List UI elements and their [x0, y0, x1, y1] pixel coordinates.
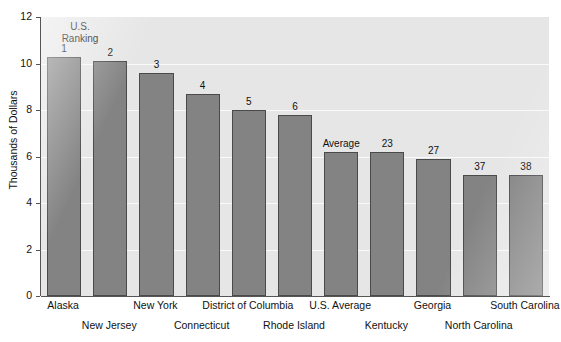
bar: [232, 110, 266, 296]
y-tick-label: 8: [6, 103, 32, 115]
us-ranking-annotation: U.S. Ranking: [49, 21, 111, 45]
annotation-line-2: Ranking: [49, 33, 111, 45]
y-tick-mark: [36, 296, 40, 297]
bar: [93, 61, 127, 296]
bar-data-label: 2: [70, 47, 150, 58]
y-tick-label: 4: [6, 196, 32, 208]
y-tick-label: 6: [6, 150, 32, 162]
x-axis-baseline: [41, 296, 550, 297]
bar: [139, 73, 173, 296]
bar-data-label: 3: [116, 59, 196, 70]
y-axis-title: Thousands of Dollars: [7, 5, 19, 275]
x-axis-label: North Carolina: [419, 319, 539, 331]
y-tick-label: 10: [6, 57, 32, 69]
annotation-line-1: U.S.: [49, 21, 111, 33]
bar: [186, 94, 220, 296]
bar: [324, 152, 358, 296]
bar-chart: Thousands of Dollars 024681012 123456Ave…: [0, 0, 561, 342]
chart-title-cropped: [0, 0, 561, 9]
x-axis-label: South Carolina: [465, 299, 561, 311]
bar-data-label: 6: [255, 101, 335, 112]
y-tick-label: 2: [6, 243, 32, 255]
bar-data-label: 27: [394, 145, 474, 156]
bar: [463, 175, 497, 296]
bar-data-label: 38: [486, 161, 561, 172]
bar: [47, 57, 81, 296]
bar-data-label: 4: [163, 80, 243, 91]
bar: [370, 152, 404, 296]
bar: [509, 175, 543, 296]
bar: [416, 159, 450, 296]
plot-area: 123456Average23273738 U.S. Ranking: [40, 17, 549, 296]
y-tick-label: 12: [6, 10, 32, 22]
